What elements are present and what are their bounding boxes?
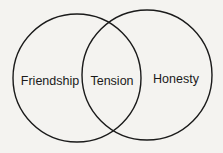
friendship-label: Friendship xyxy=(21,74,79,88)
honesty-label: Honesty xyxy=(153,72,200,86)
venn-diagram: Friendship Tension Honesty xyxy=(0,0,223,153)
tension-label: Tension xyxy=(90,74,133,88)
